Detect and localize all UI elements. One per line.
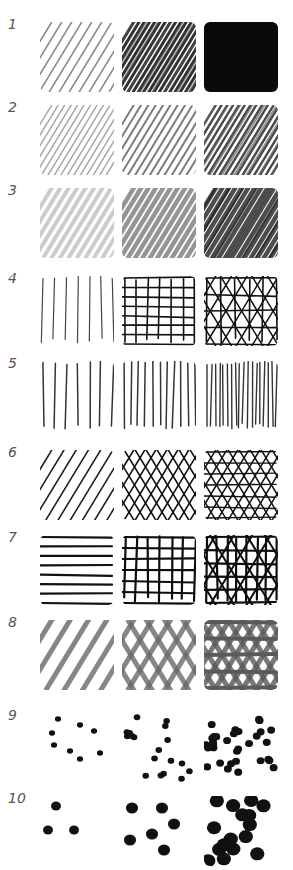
swatch-tonal-diagonal-wash-light bbox=[38, 186, 116, 260]
swatch-soft-pencil-solid-fill bbox=[202, 20, 280, 94]
technique-row-4: 4 bbox=[0, 268, 293, 352]
row-number-label: 8 bbox=[8, 614, 17, 630]
technique-row-8: 8 bbox=[0, 612, 293, 696]
technique-row-5: 5 bbox=[0, 353, 293, 437]
technique-row-7: 7 bbox=[0, 527, 293, 611]
swatch-small-dots-sparse bbox=[38, 711, 116, 785]
swatch-grid-plus-diagonal-crosshatch bbox=[202, 274, 280, 348]
swatch-tonal-diagonal-wash-dark bbox=[202, 186, 280, 260]
swatch-bold-square-grid bbox=[120, 533, 198, 607]
swatch-diagonal-crosshatch bbox=[120, 448, 198, 522]
technique-row-2: 2 bbox=[0, 97, 293, 181]
swatch-fine-diagonal-hatch-mid-grey bbox=[120, 103, 198, 177]
swatch-broad-marker-crosshatch bbox=[120, 618, 198, 692]
row-number-label: 6 bbox=[8, 444, 17, 460]
row-number-label: 5 bbox=[8, 355, 17, 371]
swatch-broad-marker-dense-crosshatch bbox=[202, 618, 280, 692]
technique-row-9: 9 bbox=[0, 705, 293, 789]
row-number-label: 1 bbox=[8, 16, 17, 32]
row-number-label: 2 bbox=[8, 99, 17, 115]
technique-row-1: 1 bbox=[0, 14, 293, 98]
swatch-vertical-lines-wide-spacing bbox=[38, 359, 116, 433]
technique-row-6: 6 bbox=[0, 442, 293, 526]
swatch-soft-pencil-diagonal-hatch-dense bbox=[120, 20, 198, 94]
swatch-large-dots-dense bbox=[202, 794, 280, 868]
swatch-horizontal-lines bbox=[38, 533, 116, 607]
row-number-label: 7 bbox=[8, 529, 17, 545]
swatch-broad-marker-diagonal-strokes bbox=[38, 618, 116, 692]
swatch-fine-diagonal-hatch-light-grey bbox=[38, 103, 116, 177]
row-number-label: 3 bbox=[8, 182, 17, 198]
swatch-small-dots-medium bbox=[120, 711, 198, 785]
swatch-sparse-vertical-lines bbox=[38, 274, 116, 348]
swatch-soft-pencil-diagonal-hatch-light bbox=[38, 20, 116, 94]
swatch-tonal-diagonal-wash-mid bbox=[120, 186, 198, 260]
technique-row-10: 10 bbox=[0, 788, 293, 870]
row-number-label: 4 bbox=[8, 270, 17, 286]
swatch-vertical-lines-tight-spacing bbox=[202, 359, 280, 433]
swatch-large-dots-sparse bbox=[38, 794, 116, 868]
swatch-vertical-lines-medium-spacing bbox=[120, 359, 198, 433]
row-number-label: 9 bbox=[8, 707, 17, 723]
swatch-large-dots-medium bbox=[120, 794, 198, 868]
row-number-label: 10 bbox=[8, 790, 26, 806]
swatch-diagonal-parallel-lines bbox=[38, 448, 116, 522]
swatch-fine-diagonal-hatch-dark-grey bbox=[202, 103, 280, 177]
swatch-bold-grid-with-diagonals bbox=[202, 533, 280, 607]
technique-row-3: 3 bbox=[0, 180, 293, 264]
swatch-triple-crosshatch bbox=[202, 448, 280, 522]
swatch-small-dots-dense bbox=[202, 711, 280, 785]
swatch-square-grid-crosshatch bbox=[120, 274, 198, 348]
